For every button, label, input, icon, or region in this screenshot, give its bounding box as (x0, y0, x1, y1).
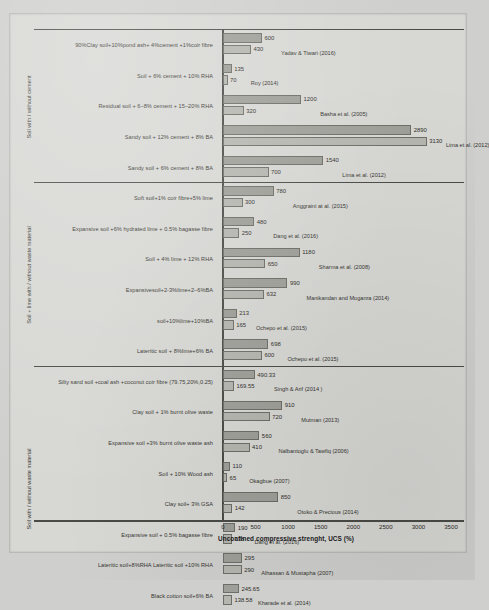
bar-pair: 245.65138.58Kharade et al. (2014) (223, 583, 466, 609)
bar-upper-bar[interactable] (223, 462, 230, 471)
bar-value-label: 700 (269, 169, 281, 175)
group-label: Soil with / without cement (26, 75, 32, 138)
bar-lower-bar[interactable] (223, 320, 234, 329)
bar-lower-bar[interactable] (223, 595, 232, 604)
bar-lower-bar[interactable] (223, 259, 265, 268)
bar-value-label: 3130 (427, 138, 443, 144)
bar-lower-bar[interactable] (223, 381, 234, 390)
category-label: Black cotton soil+6% BA (151, 593, 213, 599)
bar-lower-bar[interactable] (223, 412, 270, 421)
citation-label: Kharade et al. (2014) (255, 600, 311, 606)
category-label: Lateritic soil+8%RHA Lateritic soil +10%… (98, 562, 213, 568)
citation-label: Manikandan and Moganra (2014) (303, 295, 389, 301)
bar-value-label: 1200 (301, 96, 317, 102)
bar-upper-bar[interactable] (223, 217, 254, 226)
bar-upper-bar[interactable] (223, 401, 282, 410)
bar-lower-bar[interactable] (223, 137, 427, 146)
bar-value-label: 1540 (323, 157, 339, 163)
bar-row: Expansive soil +3% burnt olive waste ash… (10, 428, 466, 459)
bar-value-label: 600 (262, 352, 274, 358)
bar-value-label: 720 (270, 414, 282, 420)
citation-label: Lima et al. (2012) (339, 172, 386, 178)
category-label: Soil + 4% lime + 12% RHA (145, 256, 213, 262)
category-label: Sandy soil + 6% cement + 8% BA (128, 165, 213, 171)
bar-row: Sandy soil + 12% cement + 8% BA28903130L… (10, 122, 466, 153)
bar-pair: 480250Dang et al. (2016) (223, 216, 466, 242)
bar-pair: 1540700Lima et al. (2012) (223, 155, 466, 181)
citation-label: Ochepo et al. (2015) (284, 356, 338, 362)
bar-upper-bar[interactable] (223, 492, 278, 501)
bar-value-label: 110 (230, 463, 242, 469)
x-tick-label: 3500 (444, 523, 458, 530)
bar-row: Black cotton soil+6% BA245.65138.58Khara… (10, 581, 466, 610)
bar-value-label: 138.58 (232, 597, 252, 603)
bar-upper-bar[interactable] (223, 553, 242, 562)
citation-label: Otoko & Precious (2014) (294, 509, 358, 515)
group-label: Soil with / without waste material (26, 449, 32, 530)
bar-lower-bar[interactable] (223, 565, 242, 574)
bar-value-label: 165 (234, 322, 246, 328)
bar-upper-bar[interactable] (223, 64, 232, 73)
bar-value-label: 430 (251, 46, 263, 52)
bar-value-label: 480 (254, 219, 266, 225)
bar-pair: 1180650Sharma et al. (2008) (223, 246, 466, 272)
bar-pair: 780300Anggraini at al. (2015) (223, 185, 466, 211)
bar-upper-bar[interactable] (223, 186, 274, 195)
bar-value-label: 295 (242, 555, 254, 561)
bar-lower-bar[interactable] (223, 45, 251, 54)
category-label: 90%Clay soil+10%pond ash+ 4%cement +1%co… (75, 42, 213, 48)
bar-value-label: 650 (265, 261, 277, 267)
bar-row: soil+10%lime+10%BA213165Ochepo et al. (2… (10, 305, 466, 336)
bar-value-label: 250 (239, 230, 251, 236)
x-axis-title: Unconfined compressive strenght, UCS (%) (10, 535, 466, 542)
bar-upper-bar[interactable] (223, 309, 237, 318)
bar-lower-bar[interactable] (223, 351, 262, 360)
bar-lower-bar[interactable] (223, 290, 264, 299)
bar-upper-bar[interactable] (223, 278, 287, 287)
bar-upper-bar[interactable] (223, 33, 262, 42)
bar-upper-bar[interactable] (223, 156, 323, 165)
bar-lower-bar[interactable] (223, 443, 250, 452)
bar-value-label: 600 (262, 35, 274, 41)
bar-upper-bar[interactable] (223, 248, 300, 257)
bar-upper-bar[interactable] (223, 431, 259, 440)
bar-pair: 560410Nalbantoglu & Tawfiq (2006) (223, 430, 466, 456)
bar-value-label: 1180 (300, 249, 315, 255)
bar-upper-bar[interactable] (223, 584, 239, 593)
bar-value-label: 2890 (411, 127, 427, 133)
bar-row: Lateritic soil + 8%lime+6% BA698600Ochep… (10, 336, 466, 367)
bar-pair: 698600Ochepo et al. (2015) (223, 338, 466, 364)
bar-value-label: 990 (287, 280, 299, 286)
x-tick-label: 0 (221, 523, 224, 530)
citation-label: Singh & Arif (2014 ) (271, 386, 323, 392)
bar-lower-bar[interactable] (223, 106, 244, 115)
bar-lower-bar[interactable] (223, 228, 239, 237)
bar-upper-bar[interactable] (223, 370, 255, 379)
bar-upper-bar[interactable] (223, 95, 301, 104)
bar-value-label: 142 (232, 505, 244, 511)
bar-upper-bar[interactable] (223, 125, 411, 134)
category-label: Soil + 6% cement + 10% RHA (137, 73, 213, 79)
bar-pair: 1200320Basha et al. (2005) (223, 93, 466, 119)
bar-value-label: 300 (243, 199, 255, 205)
citation-label: Anggraini at al. (2015) (290, 203, 348, 209)
bar-lower-bar[interactable] (223, 504, 232, 513)
bar-lower-bar[interactable] (223, 198, 243, 207)
bar-value-label: 632 (264, 291, 276, 297)
bar-value-label: 560 (259, 433, 271, 439)
bar-value-label: 320 (244, 108, 256, 114)
x-tick-label: 1500 (314, 523, 328, 530)
bar-value-label: 910 (282, 402, 294, 408)
category-label: Expansive soil +6% hydrated lime + 0.5% … (72, 226, 213, 232)
citation-label: Yadav & Tiwari (2016) (278, 50, 336, 56)
category-label: Expansive soil +3% burnt olive waste ash (108, 440, 213, 446)
bar-lower-bar[interactable] (223, 167, 269, 176)
bar-value-label: 490.33 (255, 372, 275, 378)
citation-label: Roy (2014) (248, 80, 279, 86)
plot-area: 90%Clay soil+10%pond ash+ 4%cement +1%co… (10, 14, 466, 552)
bar-upper-bar[interactable] (223, 339, 268, 348)
bar-pair: 28903130Lima et al. (2012) (223, 124, 466, 150)
x-tick-label: 2500 (379, 523, 393, 530)
citation-label: Ochepo et al. (2015) (253, 325, 307, 331)
bar-value-label: 698 (268, 341, 280, 347)
